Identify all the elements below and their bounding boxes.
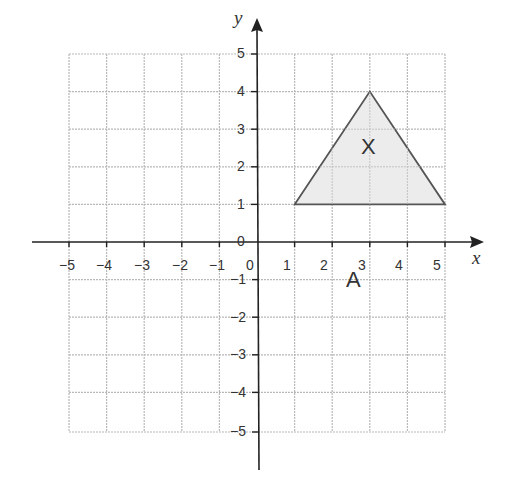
x-tick-label: −4 xyxy=(96,258,112,272)
x-tick-label: −1 xyxy=(209,258,225,272)
y-tick-label: −2 xyxy=(230,310,246,324)
y-axis-arrow-icon xyxy=(251,18,263,32)
y-tick-label: 4 xyxy=(237,84,245,98)
y-tick-label: 3 xyxy=(237,122,245,136)
x-tick-label: 4 xyxy=(395,258,403,272)
x-tick-label: 2 xyxy=(320,258,328,272)
x-tick-label: −3 xyxy=(134,258,150,272)
x-tick-label: −5 xyxy=(59,258,75,272)
x-tick-label: 1 xyxy=(283,258,291,272)
y-axis xyxy=(251,18,263,470)
y-tick-label: 2 xyxy=(237,159,245,173)
y-tick-label-origin: 0 xyxy=(237,234,245,248)
shape-label-x: X xyxy=(361,136,376,158)
coordinate-plane xyxy=(0,0,511,498)
y-tick-label: −5 xyxy=(230,424,246,438)
point-label-a: A xyxy=(346,269,361,291)
y-tick-label: −4 xyxy=(230,385,246,399)
x-axis-label: x xyxy=(472,248,480,267)
y-tick-label: 1 xyxy=(237,197,245,211)
y-tick-label: −1 xyxy=(230,272,246,286)
x-tick-label-origin: 0 xyxy=(246,258,254,272)
y-axis-label: y xyxy=(234,8,242,27)
x-tick-label: −2 xyxy=(172,258,188,272)
x-tick-label: 5 xyxy=(433,258,441,272)
y-tick-label: 5 xyxy=(237,46,245,60)
y-tick-label: −3 xyxy=(230,347,246,361)
